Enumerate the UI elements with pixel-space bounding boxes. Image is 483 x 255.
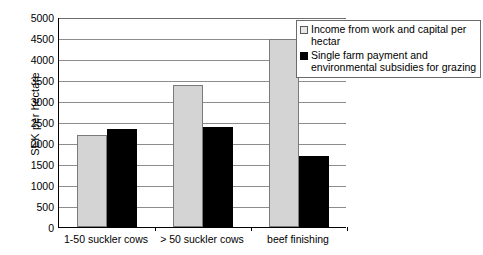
chart-legend: Income from work and capital per hectar … — [296, 20, 481, 78]
legend-item-label: Income from work and capital per hectar — [311, 24, 477, 47]
x-axis-category-label: 1-50 suckler cows — [58, 233, 154, 245]
y-axis-tick-label: 1500 — [18, 160, 54, 171]
y-axis-tick-label: 5000 — [18, 13, 54, 24]
legend-item: Income from work and capital per hectar — [300, 24, 477, 47]
legend-item-label: Single farm payment and environmental su… — [311, 50, 477, 73]
x-axis-tick — [155, 227, 156, 231]
bar — [173, 85, 203, 227]
bar — [269, 39, 299, 227]
light-square-swatch — [300, 26, 308, 34]
bar-chart: SEK per hectare 500045004000350030002500… — [0, 0, 483, 255]
x-axis-tick — [251, 227, 252, 231]
legend-item: Single farm payment and environmental su… — [300, 50, 477, 73]
y-axis-tick-label: 4000 — [18, 55, 54, 66]
bar — [107, 129, 137, 227]
y-axis-tick-label: 0 — [18, 223, 54, 234]
x-axis-category-label: > 50 suckler cows — [154, 233, 250, 245]
y-axis-tick-label: 500 — [18, 202, 54, 213]
x-axis-category-labels: 1-50 suckler cows> 50 suckler cowsbeef f… — [58, 233, 346, 251]
y-axis-tick-labels: 5000450040003500300025002000150010005000 — [18, 12, 54, 230]
y-axis-tick-label: 2000 — [18, 139, 54, 150]
bar — [77, 135, 107, 227]
y-axis-tick-label: 3500 — [18, 76, 54, 87]
y-axis-tick-label: 1000 — [18, 181, 54, 192]
y-axis-tick-label: 3000 — [18, 97, 54, 108]
y-axis-tick-label: 2500 — [18, 118, 54, 129]
x-axis-category-label: beef finishing — [250, 233, 346, 245]
black-square-swatch — [300, 52, 308, 60]
y-axis-tick-label: 4500 — [18, 34, 54, 45]
bar — [299, 156, 329, 227]
x-axis-tick — [347, 227, 348, 231]
bar — [203, 127, 233, 227]
